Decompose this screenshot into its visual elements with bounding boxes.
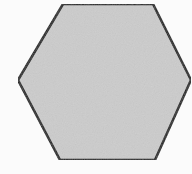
hexagon-shape [18,4,191,160]
diagram-canvas [0,0,192,174]
hexagon-figure [0,0,192,174]
